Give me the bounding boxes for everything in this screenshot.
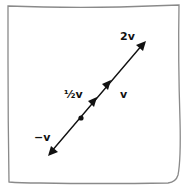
origin-dot [78,115,83,120]
diagram-canvas [0,0,187,189]
label-neg-v: −v [34,132,50,143]
paper-frame [8,5,180,184]
label-v: v [120,89,127,100]
label-half-v: ½v [64,89,83,100]
label-2v: 2v [120,31,135,42]
